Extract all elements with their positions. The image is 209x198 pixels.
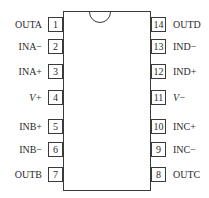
pin-number-7: 7 [48,167,63,182]
pin-number-14: 14 [151,17,166,32]
pin-label-14: OUTD [173,18,201,31]
pin-number-9: 9 [151,142,166,157]
pin-number-10: 10 [151,119,166,134]
pin-number-13: 13 [151,39,166,54]
chip-body [63,11,151,191]
pin-label-9: INC− [173,143,196,156]
pin-number-4: 4 [48,90,63,105]
pin-label-1: OUTA [15,18,42,31]
pin-label-2: INA− [19,40,42,53]
pin-label-6: INB− [19,143,42,156]
pin-label-8: OUTC [173,168,200,181]
pin-number-12: 12 [151,64,166,79]
pin-label-10: INC+ [173,120,196,133]
pin-number-3: 3 [48,64,63,79]
pin-number-6: 6 [48,142,63,157]
pin-label-13: IND− [173,40,196,53]
pin-number-5: 5 [48,119,63,134]
pin-number-8: 8 [151,167,166,182]
pin-number-11: 11 [151,90,166,105]
pin-label-11: V− [173,91,186,104]
pin-label-7: OUTB [15,168,42,181]
pin-number-1: 1 [48,17,63,32]
pin-label-4: V+ [29,91,42,104]
pin-label-3: INA+ [19,65,42,78]
ic-pinout-diagram: OUTA 1 INA− 2 INA+ 3 V+ 4 INB+ 5 INB− 6 … [0,0,209,198]
pin-number-2: 2 [48,39,63,54]
pin-label-5: INB+ [19,120,42,133]
pin1-notch [89,1,111,23]
pin-label-12: IND+ [173,65,196,78]
